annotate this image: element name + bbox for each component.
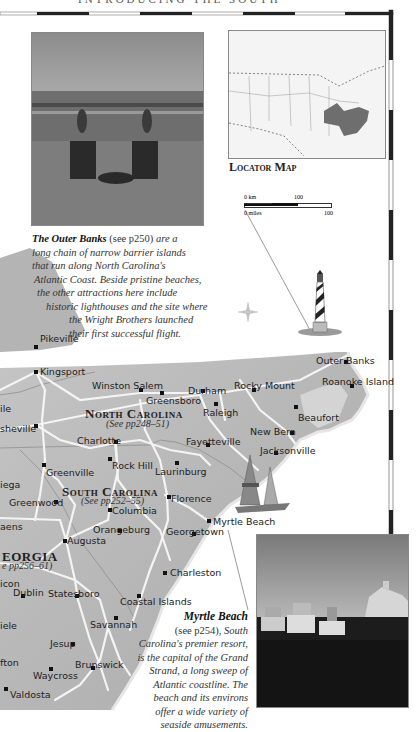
caption-line: the other attractions here include xyxy=(32,286,262,300)
city-label-valdosta: Valdosta xyxy=(10,690,51,700)
city-label-florence: Florence xyxy=(171,494,212,504)
city-label-beaufort: Beaufort xyxy=(298,413,339,423)
city-label-winston-salem: Winston Salem xyxy=(92,381,163,391)
myrtle-beach-photo xyxy=(256,534,409,708)
scale-miles-value: 100 xyxy=(324,210,333,216)
city-dot-laurinburg xyxy=(175,461,179,465)
city-label-new-bern: New Bern xyxy=(250,427,296,437)
city-label-tifton-visible: fton xyxy=(0,658,19,668)
caption-line: offer a wide variety of xyxy=(120,705,248,719)
locator-map-label: Locator Map xyxy=(229,160,296,175)
caption-line: seaside amusements. xyxy=(120,718,248,732)
city-label-greensboro: Greensboro xyxy=(146,396,201,406)
city-label-asheville-visible: sheville xyxy=(0,424,36,434)
city-label-jesup: Jesup xyxy=(50,639,76,649)
page-border-top xyxy=(0,12,393,15)
myrtle-beach-leader xyxy=(228,530,248,610)
locator-map xyxy=(228,30,386,159)
city-dot-charleston xyxy=(163,571,167,575)
scale-miles-label: 0 miles xyxy=(244,210,262,216)
city-label-laurinburg: Laurinburg xyxy=(155,467,207,477)
city-label-athens-visible: aens xyxy=(0,522,23,532)
city-label-savannah: Savannah xyxy=(90,620,137,630)
state-see-georgia: e pp256–61) xyxy=(2,560,52,571)
running-head: INTRODUCING THE SOUTH xyxy=(78,0,281,5)
city-dot-myrtle-beach xyxy=(207,519,211,523)
city-label-outer-banks: Outer Banks xyxy=(316,356,375,366)
scale-bar: 0 km 100 0 miles 100 xyxy=(244,194,334,218)
caption-line: are a xyxy=(156,233,177,244)
caption-line: Carolina's premier resort, xyxy=(120,637,248,651)
caption-line: that run along North Carolina's xyxy=(32,259,262,273)
city-label-columbia: Columbia xyxy=(112,506,157,516)
city-label-rocky-mount: Rocky Mount xyxy=(234,381,295,391)
city-label-roanoke-island: Roanoke Island xyxy=(322,377,394,387)
caption-line: is the capital of the Grand xyxy=(120,651,248,665)
city-label-greenville: Greenville xyxy=(46,468,94,478)
city-dot-pikeville xyxy=(34,345,38,349)
city-label-statesboro: Statesboro xyxy=(48,589,99,599)
caption-title: The Outer Banks xyxy=(32,233,107,244)
city-label-raleigh: Raleigh xyxy=(203,408,238,418)
caption-line: historic lighthouses and the site where xyxy=(32,300,262,314)
outer-banks-caption: The Outer Banks (see p250) are a long ch… xyxy=(32,232,262,340)
city-label-knoxville-visible: ile xyxy=(0,404,11,414)
city-label-augusta: Augusta xyxy=(67,536,106,546)
city-dot-valdosta xyxy=(4,687,8,691)
state-see-north-carolina: (See pp248–51) xyxy=(106,418,169,429)
city-label-rock-hill: Rock Hill xyxy=(112,461,153,471)
caption-line: Atlantic coastline. The xyxy=(120,678,248,692)
city-label-pikeville: Pikeville xyxy=(40,334,79,344)
caption-line: Atlantic Coast. Beside pristine beaches, xyxy=(32,273,262,287)
city-label-durham: Durham xyxy=(188,386,226,396)
caption-line: South xyxy=(224,625,248,636)
city-label-fayetteville: Fayetteville xyxy=(186,437,241,447)
caption-line: Strand, a long sweep of xyxy=(120,664,248,678)
caption-line: beach and its environs xyxy=(120,691,248,705)
city-label-charleston: Charleston xyxy=(170,568,221,578)
myrtle-beach-caption: Myrtle Beach (see p254), South Carolina'… xyxy=(120,610,248,732)
outer-banks-photo xyxy=(31,32,204,226)
caption-line: the Wright Brothers launched xyxy=(32,313,262,327)
city-label-coastal-islands: Coastal Islands xyxy=(120,597,192,607)
scale-km-label: 0 km xyxy=(244,194,256,200)
city-label-eastman-visible: iele xyxy=(0,621,17,631)
city-label-kingsport: Kingsport xyxy=(40,367,85,377)
city-label-greenwood: Greenwood xyxy=(9,498,63,508)
caption-page-ref: (see p254), xyxy=(175,625,222,636)
city-dot-beaufort xyxy=(294,405,298,409)
city-label-toccoa-visible: iega xyxy=(0,480,20,490)
city-dot-kingsport xyxy=(34,370,38,374)
city-label-jacksonville: Jacksonville xyxy=(260,446,316,456)
city-label-waycross: Waycross xyxy=(33,671,78,681)
highlighted-region xyxy=(324,103,369,136)
beach-chairs-image xyxy=(32,33,203,225)
scale-km-value: 100 xyxy=(294,194,303,200)
city-label-orangeburg: Orangeburg xyxy=(93,525,150,535)
city-dot-raleigh xyxy=(214,402,218,406)
city-label-dublin: Dublin xyxy=(13,588,44,598)
city-label-brunswick: Brunswick xyxy=(75,660,124,670)
marina-image xyxy=(257,535,408,707)
city-label-charlotte: Charlotte xyxy=(77,436,121,446)
caption-page-ref: (see p250) xyxy=(109,233,153,244)
caption-line: long chain of narrow barrier islands xyxy=(32,246,262,260)
lighthouse-icon xyxy=(298,270,342,336)
caption-title: Myrtle Beach xyxy=(184,610,248,622)
city-label-georgetown: Georgetown xyxy=(166,527,224,537)
locator-map-image xyxy=(229,31,385,158)
